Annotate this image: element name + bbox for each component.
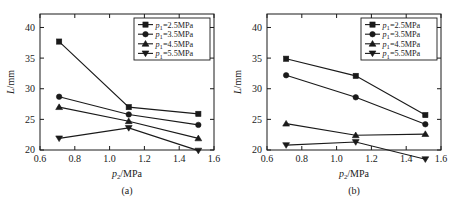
- data-point: [196, 111, 201, 116]
- chart-b-svg: 0.60.81.01.21.41.62025303540p2/MPaL/mm(b…: [227, 0, 453, 198]
- data-point: [57, 39, 62, 44]
- data-point: [56, 136, 63, 142]
- data-point: [421, 157, 428, 163]
- data-point: [422, 122, 427, 127]
- legend-marker-square: [369, 22, 374, 27]
- data-point: [353, 73, 358, 78]
- x-tick-label: 0.8: [295, 153, 308, 164]
- legend-marker-circle: [143, 31, 148, 36]
- data-point: [126, 105, 131, 110]
- y-tick-label: 20: [25, 144, 35, 155]
- data-point: [282, 120, 289, 126]
- panel-caption: (a): [121, 185, 132, 197]
- x-tick-label: 1.4: [173, 153, 186, 164]
- panel-caption: (b): [348, 185, 360, 197]
- x-tick-label: 0.8: [69, 153, 82, 164]
- y-tick-label: 35: [25, 53, 35, 64]
- data-series: [282, 120, 428, 137]
- data-point: [196, 122, 201, 127]
- x-tick-label: 1.6: [434, 153, 447, 164]
- y-tick-label: 35: [252, 53, 262, 64]
- legend: p1=2.5MPap1=3.5MPap1=4.5MPap1=5.5MPa: [134, 18, 210, 60]
- data-point: [283, 56, 288, 61]
- y-axis-title: L/mm: [232, 70, 243, 95]
- x-tick-label: 0.6: [34, 153, 47, 164]
- data-series: [283, 73, 428, 127]
- y-tick-label: 20: [252, 144, 262, 155]
- data-series: [283, 56, 427, 118]
- x-tick-label: 1.6: [208, 153, 221, 164]
- chart-panel-a: 0.60.81.01.21.41.62025303540p2/MPaL/mm(a…: [0, 0, 227, 198]
- data-point: [353, 95, 358, 100]
- x-tick-label: 1.0: [330, 153, 343, 164]
- data-point: [422, 112, 427, 117]
- x-tick-label: 0.6: [260, 153, 273, 164]
- series-group: [282, 56, 428, 162]
- data-point: [56, 104, 63, 110]
- data-point: [126, 112, 131, 117]
- y-tick-label: 30: [25, 83, 35, 94]
- legend: p1=2.5MPap1=3.5MPap1=4.5MPap1=5.5MPa: [361, 18, 437, 60]
- x-tick-label: 1.2: [365, 153, 378, 164]
- data-point: [283, 73, 288, 78]
- data-point: [195, 148, 202, 154]
- y-tick-label: 25: [252, 114, 262, 125]
- y-axis-title: L/mm: [5, 70, 16, 95]
- data-point: [56, 94, 61, 99]
- y-tick-label: 40: [252, 22, 262, 33]
- x-tick-label: 1.0: [103, 153, 116, 164]
- x-tick-label: 1.2: [138, 153, 151, 164]
- figure-container: 0.60.81.01.21.41.62025303540p2/MPaL/mm(a…: [0, 0, 453, 198]
- legend-marker-circle: [369, 31, 374, 36]
- y-tick-label: 25: [25, 114, 35, 125]
- legend-marker-square: [143, 22, 148, 27]
- y-tick-label: 40: [25, 22, 35, 33]
- x-axis-title: p2/MPa: [111, 168, 143, 180]
- chart-a-svg: 0.60.81.01.21.41.62025303540p2/MPaL/mm(a…: [0, 0, 227, 198]
- y-tick-label: 30: [252, 83, 262, 94]
- x-axis-title: p2/MPa: [338, 168, 370, 180]
- chart-panel-b: 0.60.81.01.21.41.62025303540p2/MPaL/mm(b…: [227, 0, 453, 198]
